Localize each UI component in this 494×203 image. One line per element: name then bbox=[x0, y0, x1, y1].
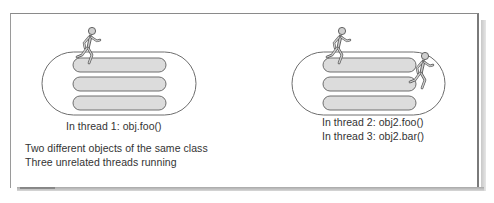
lane-1 bbox=[323, 58, 416, 72]
note-objects: Two different objects of the same class bbox=[25, 142, 208, 154]
diagram-art bbox=[0, 0, 494, 203]
caption-thread-1: In thread 1: obj.foo() bbox=[66, 120, 162, 132]
lane-3 bbox=[73, 96, 166, 110]
caption-thread-2: In thread 2: obj2.foo() bbox=[322, 116, 424, 128]
lane-2 bbox=[73, 77, 166, 91]
caption-thread-3: In thread 3: obj2.bar() bbox=[322, 130, 424, 142]
note-threads: Three unrelated threads running bbox=[25, 156, 177, 168]
lane-1 bbox=[73, 58, 166, 72]
object-right bbox=[292, 27, 445, 115]
lane-3 bbox=[323, 96, 416, 110]
lane-2 bbox=[323, 77, 416, 91]
object-left bbox=[42, 27, 196, 115]
